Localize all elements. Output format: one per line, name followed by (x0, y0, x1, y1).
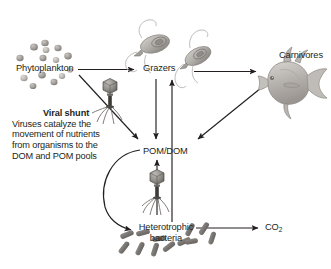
viral-shunt-annotation: Viral shunt Viruses catalyze the movemen… (12, 108, 120, 162)
bacteriophage-icon-lower (142, 170, 169, 216)
node-label-grazers: Grazers (143, 63, 175, 74)
co2-subscript: 2 (279, 226, 283, 233)
viral-shunt-line-3: from organisms to the (12, 140, 120, 151)
heterotrophic-line-1: Heterotrophic (139, 222, 194, 232)
node-label-co2: CO2 (265, 222, 282, 234)
food-web-diagram: Phytoplankton Grazers Carnivores POM/DOM… (0, 0, 331, 269)
node-label-carnivores: Carnivores (279, 50, 323, 61)
viral-shunt-line-4: DOM and POM pools (12, 151, 120, 162)
viral-shunt-description: Viruses catalyze the movement of nutrien… (12, 119, 120, 162)
heterotrophic-line-2: bacteria (150, 233, 182, 243)
node-label-phytoplankton: Phytoplankton (16, 63, 74, 74)
co2-main: CO (265, 222, 279, 232)
node-label-pom-dom: POM/DOM (143, 146, 188, 157)
node-label-heterotrophic-bacteria: Heterotrophic bacteria (138, 222, 194, 244)
viral-shunt-line-2: movement of nutrients (12, 129, 120, 140)
viral-shunt-line-1: Viruses catalyze the (12, 119, 120, 130)
arrow-carnivores-to-pomdom (198, 88, 261, 139)
flagellate-grazer-icon-right (175, 30, 214, 88)
arrow-pomdom-to-bacteria (104, 150, 140, 230)
viral-shunt-title: Viral shunt (12, 108, 120, 118)
